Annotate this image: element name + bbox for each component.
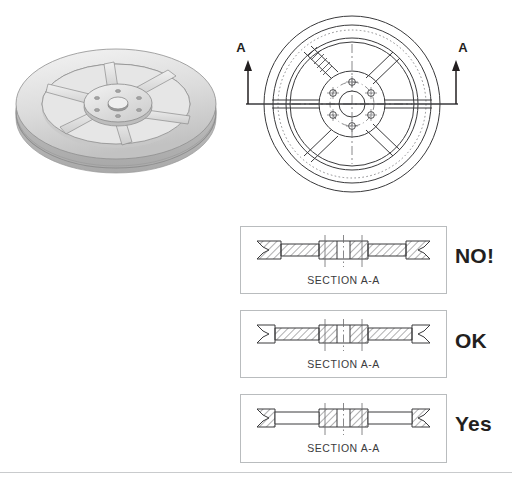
- verdict-label-yes: Yes: [455, 412, 492, 436]
- section-drawing-yes: [241, 395, 446, 441]
- section-caption-ok: SECTION A-A: [241, 358, 446, 370]
- cutting-plane-label-left: A: [236, 40, 246, 55]
- footer-divider: [0, 472, 512, 473]
- verdict-label-no: NO!: [455, 244, 494, 268]
- section-caption-yes: SECTION A-A: [241, 442, 446, 454]
- front-view-svg: A A: [232, 8, 472, 204]
- section-drawing-no: [241, 227, 446, 273]
- section-box-yes: SECTION A-A: [240, 394, 447, 463]
- pulley-body: [16, 49, 216, 173]
- section-drawing-ok: [241, 311, 446, 357]
- section-box-no: SECTION A-A: [240, 226, 447, 294]
- front-orthographic-view: A A: [232, 8, 472, 204]
- pulley-3d-render: [8, 12, 224, 202]
- pulley-3d-svg: [8, 12, 224, 202]
- figure-canvas: A A: [0, 0, 512, 487]
- footer-caption: [46, 474, 466, 486]
- cutting-plane-label-right: A: [458, 40, 468, 55]
- verdict-label-ok: OK: [455, 329, 487, 353]
- section-box-ok: SECTION A-A: [240, 310, 447, 378]
- section-caption-no: SECTION A-A: [241, 274, 446, 286]
